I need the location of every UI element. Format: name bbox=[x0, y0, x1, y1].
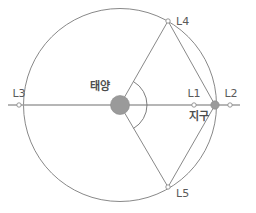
lagrange-marker-l3 bbox=[17, 103, 21, 107]
lagrange-marker-l1 bbox=[192, 103, 196, 107]
earth-label: 지구 bbox=[189, 109, 209, 123]
sun-body bbox=[111, 96, 130, 115]
lagrange-label-l3: L3 bbox=[12, 87, 25, 100]
lagrange-label-l5: L5 bbox=[176, 187, 189, 200]
angle-arc-upper bbox=[134, 82, 148, 105]
diagram-canvas: 태양 지구 L1 L2 L3 L4 L5 bbox=[0, 0, 256, 213]
lagrange-marker-l2 bbox=[228, 103, 232, 107]
lagrange-label-l4: L4 bbox=[176, 15, 189, 28]
lagrange-label-l1: L1 bbox=[187, 87, 200, 100]
lagrange-label-l2: L2 bbox=[224, 87, 237, 100]
sun-label: 태양 bbox=[90, 79, 110, 93]
angle-arc-lower bbox=[134, 105, 148, 128]
lagrange-marker-l5 bbox=[166, 185, 170, 189]
lagrange-marker-l4 bbox=[166, 19, 170, 23]
lagrange-point-diagram: 태양 지구 L1 L2 L3 L4 L5 bbox=[0, 0, 256, 213]
earth-body bbox=[211, 101, 219, 109]
